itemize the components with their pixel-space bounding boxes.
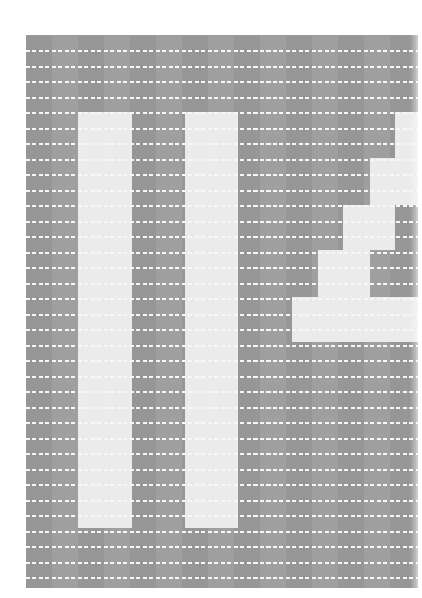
dashed-row-line [26, 562, 418, 564]
staircase-step-3 [343, 205, 395, 250]
dashed-row-line [26, 97, 418, 99]
staircase-step-5 [292, 297, 418, 342]
dashed-row-line [26, 577, 418, 579]
pattern-grid [26, 35, 418, 588]
scanned-pattern-figure [0, 0, 422, 598]
middle-vertical-bar [185, 112, 238, 528]
dashed-row-line [26, 546, 418, 548]
dashed-row-line [26, 531, 418, 533]
dashed-row-line [26, 66, 418, 68]
perforated-top-edge [26, 35, 418, 36]
left-vertical-bar [78, 112, 132, 528]
dashed-row-line [26, 81, 418, 83]
staircase-step-4 [318, 250, 370, 297]
right-edge-fade [410, 35, 418, 588]
dashed-row-line [26, 50, 418, 52]
